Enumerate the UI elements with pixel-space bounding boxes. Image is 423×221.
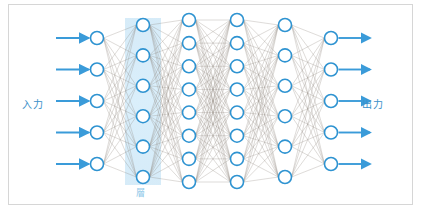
network-canvas (0, 0, 423, 221)
network-node (279, 49, 292, 62)
network-node (137, 110, 150, 123)
network-node (183, 60, 196, 73)
network-node (137, 49, 150, 62)
network-node (325, 95, 338, 108)
network-node (231, 83, 244, 96)
network-node (91, 126, 104, 139)
network-node (325, 63, 338, 76)
network-node (231, 14, 244, 27)
network-node (279, 140, 292, 153)
network-node (91, 95, 104, 108)
network-node (231, 176, 244, 189)
highlighted-layer-label: 層 (136, 186, 145, 199)
network-node (137, 19, 150, 32)
network-node (183, 176, 196, 189)
network-node (183, 129, 196, 142)
network-node (137, 140, 150, 153)
network-node (325, 32, 338, 45)
network-node (137, 79, 150, 92)
network-node (231, 60, 244, 73)
network-node (325, 158, 338, 171)
network-node (231, 106, 244, 119)
network-node (91, 158, 104, 171)
input-label: 入力 (22, 96, 44, 111)
network-node (183, 83, 196, 96)
network-node (183, 106, 196, 119)
network-node (91, 63, 104, 76)
network-node (183, 14, 196, 27)
network-node (231, 152, 244, 165)
network-node (231, 129, 244, 142)
network-node (91, 32, 104, 45)
network-node (279, 79, 292, 92)
network-node (183, 152, 196, 165)
network-node (137, 171, 150, 184)
network-node (325, 126, 338, 139)
network-node (279, 171, 292, 184)
network-node (279, 19, 292, 32)
network-node (231, 37, 244, 50)
output-label: 出力 (362, 96, 384, 111)
network-node (183, 37, 196, 50)
network-node (279, 110, 292, 123)
neural-network-diagram: 入力 出力 層 (0, 0, 423, 221)
